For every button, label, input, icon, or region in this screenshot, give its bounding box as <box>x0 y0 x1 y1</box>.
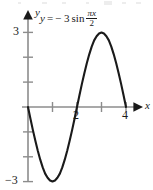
equation-annotation: y = − 3 sin πx 2 <box>40 9 97 29</box>
y-tick-label-negative-3: −3 <box>5 174 18 186</box>
equation-lhs: y <box>40 13 45 24</box>
fraction-numerator: πx <box>86 9 97 18</box>
fraction-denominator: 2 <box>88 19 95 28</box>
equation-fraction: πx 2 <box>86 9 97 29</box>
y-tick-label-3: 3 <box>13 25 19 37</box>
equation-function: sin <box>72 13 85 24</box>
x-axis-label: x <box>145 100 150 111</box>
equation-coefficient: − 3 <box>55 13 69 24</box>
equation-equals: = <box>47 13 53 24</box>
sine-curve-figure: y x 3 −3 2 4 y = − 3 sin πx 2 <box>0 0 153 190</box>
x-tick-label-2: 2 <box>73 109 79 121</box>
x-tick-label-4: 4 <box>122 109 128 121</box>
